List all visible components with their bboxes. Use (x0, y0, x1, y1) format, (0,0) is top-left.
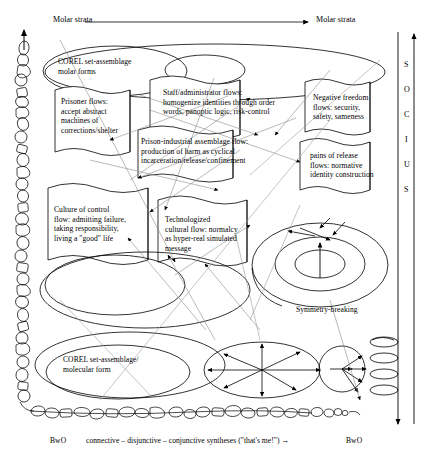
corel-molecular-label: COREL set-assemblage/ molecular form (63, 355, 139, 374)
prisoner-flows-label: Prisoner flows: accept abstract machines… (61, 97, 118, 135)
molecular-ellipse-group (35, 252, 250, 399)
socius-letter-4: U (404, 160, 410, 169)
molecular-star-group (204, 337, 398, 398)
deleuze-guattari-assemblage-diagram: Molar strata Molar strata COREL set-asse… (0, 0, 439, 454)
symmetry-breaking-label: Symmetry-breaking (296, 305, 358, 315)
molar-strata-left-label: Molar strata (53, 15, 92, 25)
staff-administrator-flows-label: Staff/administrator flows: homogenize id… (163, 88, 275, 117)
bottom-caption: connective – disjunctive – conjunctive s… (86, 436, 289, 446)
molar-strata-right-label: Molar strata (316, 15, 355, 25)
prison-industrial-assemblage-label: Prison-industrial assemblage flow: produ… (141, 137, 248, 166)
socius-letter-1: O (404, 85, 410, 94)
corel-molar-label: COREL set-assemblage molar forms (58, 57, 131, 76)
negative-freedom-flows-label: Negative freedom flows: security, safety… (313, 93, 368, 122)
bwo-left-label: BwO (50, 436, 66, 446)
socius-letter-2: C (404, 110, 409, 119)
culture-of-control-label: Culture of control flow: admitting failu… (54, 205, 126, 243)
technologized-cultural-flow-label: Technologized cultural flow: normalcy as… (165, 215, 238, 253)
symmetry-breaking-spiral (252, 218, 388, 307)
socius-letter-0: S (404, 60, 408, 69)
pains-of-release-label: pains of release flows: normative identi… (310, 151, 374, 180)
bwo-right-label: BwO (346, 436, 362, 446)
socius-letter-3: I (405, 135, 408, 144)
socius-letter-5: S (404, 185, 408, 194)
